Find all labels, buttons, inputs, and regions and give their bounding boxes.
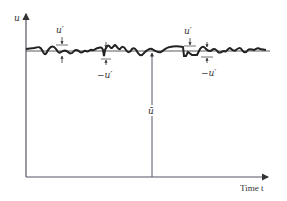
fluctuation-marker-right: u′	[184, 26, 196, 46]
neg-u-prime-label-2: −u′	[201, 68, 216, 78]
u-prime-label-2: u′	[184, 26, 192, 36]
turbulence-diagram: u′ −u′ u′ −u′ ū u Time t	[0, 0, 287, 201]
velocity-signal	[26, 45, 266, 56]
x-axis-label: Time t	[240, 183, 264, 193]
mean-label: ū	[148, 106, 154, 116]
y-axis-label: u	[14, 13, 20, 23]
neg-u-prime-label-1: −u′	[97, 70, 112, 80]
fluctuation-marker-left: u′	[56, 25, 68, 63]
u-prime-label-1: u′	[56, 25, 64, 35]
